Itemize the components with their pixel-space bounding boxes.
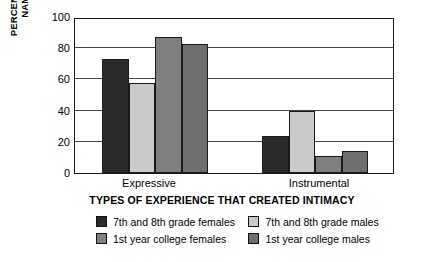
y-axis-title-line1: PERCENT WHO NAMED (8, 0, 31, 52)
chart-legend: 7th and 8th grade females 7th and 8th gr… (96, 213, 396, 247)
legend-label-0: 7th and 8th grade females (113, 216, 235, 228)
y-axis-tick-labels: 100 80 60 40 20 0 (44, 11, 70, 181)
legend-item-1: 7th and 8th grade males (248, 216, 396, 228)
bar-expressive-s3 (182, 44, 209, 173)
legend-swatch-icon-1 (248, 216, 259, 227)
bar-instrumental-s3 (342, 151, 369, 173)
y-tick-0: 0 (44, 167, 70, 180)
legend-item-2: 1st year college females (96, 233, 248, 245)
legend-swatch-icon-0 (96, 216, 107, 227)
plot-area (74, 18, 394, 174)
bar-instrumental-s2 (315, 156, 342, 173)
legend-swatch-icon-3 (248, 233, 259, 244)
bar-instrumental-s0 (262, 136, 289, 173)
y-axis-title: PERCENT WHO NAMEDEACH TYPE (2, 0, 36, 52)
bars-layer (75, 19, 393, 173)
x-axis-title: TYPES OF EXPERIENCE THAT CREATED INTIMAC… (0, 194, 444, 206)
x-tick-expressive: Expressive (74, 177, 224, 189)
x-tick-instrumental: Instrumental (244, 177, 394, 189)
legend-row: 7th and 8th grade females 7th and 8th gr… (96, 213, 396, 230)
legend-item-3: 1st year college males (248, 233, 396, 245)
y-tick-100: 100 (44, 11, 70, 24)
y-tick-20: 20 (44, 136, 70, 149)
legend-row: 1st year college females 1st year colleg… (96, 230, 396, 247)
legend-item-0: 7th and 8th grade females (96, 216, 248, 228)
legend-swatch-icon-2 (96, 233, 107, 244)
legend-label-1: 7th and 8th grade males (265, 216, 378, 228)
legend-label-2: 1st year college females (113, 233, 226, 245)
bar-expressive-s0 (102, 59, 129, 173)
y-tick-60: 60 (44, 73, 70, 86)
y-tick-40: 40 (44, 105, 70, 118)
y-tick-80: 80 (44, 42, 70, 55)
bar-expressive-s2 (155, 37, 182, 173)
legend-label-3: 1st year college males (265, 233, 369, 245)
bar-instrumental-s1 (289, 111, 316, 173)
bar-expressive-s1 (129, 83, 156, 173)
bar-chart: PERCENT WHO NAMEDEACH TYPE 100 80 60 40 … (0, 0, 444, 262)
